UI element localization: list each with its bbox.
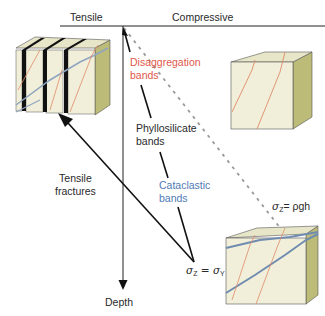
phyllosilicate-trend-lower [160,152,168,178]
disaggregation-block [231,52,312,129]
tensile-fractures-label-line1: Tensile [55,172,96,185]
depth-axis-label: Depth [105,296,133,309]
equals-sigma: = σ [197,264,220,276]
phyllosilicate-bands-label: Phyllosilicate bands [136,122,197,148]
compressive-axis-label: Compressive [172,11,233,24]
phyllosilicate-label-line1: Phyllosilicate [136,122,197,135]
phyllosilicate-label-line2: bands [136,135,197,148]
diagram-canvas [0,0,325,316]
cataclastic-block [226,226,318,304]
cataclastic-bands-label: Cataclastic bands [159,179,210,205]
tensile-axis-label: Tensile [70,11,103,24]
tensile-fractures-label-line2: fractures [55,185,96,198]
yield-equation: σZ = σY [186,264,225,280]
phyllosilicate-trend-upper [141,85,151,118]
cataclastic-label-line1: Cataclastic [159,179,210,192]
disaggregation-label-line2: bands [130,69,201,82]
depth-arrow-head-icon [119,280,128,290]
disaggregation-label-line1: Disaggregation [130,56,201,69]
rho-g-h-expression: = ρgh [283,200,310,212]
tensile-fracture-block [16,37,110,115]
tensile-fractures-label: Tensile fractures [55,172,96,198]
lithostatic-equation: σZ= ρgh [272,200,310,216]
y-subscript: Y [220,270,225,277]
disaggregation-bands-label: Disaggregation bands [130,56,201,82]
cataclastic-label-line2: bands [159,192,210,205]
